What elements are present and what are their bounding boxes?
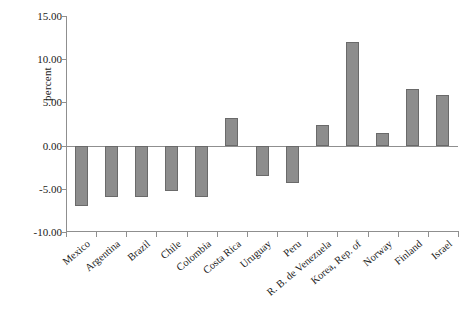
y-tick-label: 10.00 — [18, 53, 62, 65]
bar — [316, 125, 329, 146]
bar — [406, 89, 419, 145]
x-axis-tick-labels: MexicoArgentinaBrazilChileColombiaCosta … — [66, 236, 458, 325]
y-tick-mark — [61, 102, 67, 103]
y-tick-mark — [61, 16, 67, 17]
bar — [286, 146, 299, 183]
bar — [256, 146, 269, 176]
bar — [105, 146, 118, 198]
bar — [165, 146, 178, 191]
y-tick-mark — [61, 59, 67, 60]
y-tick-label: 5.00 — [18, 96, 62, 108]
y-tick-mark — [61, 189, 67, 190]
y-axis-tick-labels: 15.0010.005.000.00-5.00-10.00 — [14, 0, 62, 325]
bar — [346, 42, 359, 146]
y-tick-label: 15.00 — [18, 10, 62, 22]
bar — [436, 95, 449, 146]
bar — [135, 146, 148, 198]
bar — [195, 146, 208, 198]
bar — [376, 133, 389, 146]
y-tick-label: -5.00 — [18, 183, 62, 195]
bar — [75, 146, 88, 206]
y-tick-label: -10.00 — [18, 226, 62, 238]
bar — [225, 118, 238, 146]
plot-area — [66, 16, 458, 232]
y-tick-label: 0.00 — [18, 140, 62, 152]
y-tick-mark — [61, 146, 67, 147]
y-axis-line — [66, 16, 67, 232]
